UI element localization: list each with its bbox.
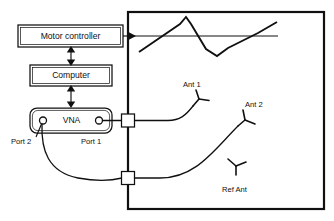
port1-label: Port 1 [81, 137, 101, 146]
block-diagram: Motor controller Computer VNA Port 2 Por… [0, 0, 334, 221]
computer-label: Computer [52, 70, 90, 80]
feedthrough-top[interactable] [122, 114, 135, 127]
motor-controller-label: Motor controller [41, 31, 101, 41]
ant1-label: Ant 1 [183, 80, 201, 89]
computer-vna-arrow-down [67, 102, 75, 109]
port2-label: Port 2 [11, 137, 31, 146]
ant2-label: Ant 2 [245, 100, 263, 109]
vna-label: VNA [63, 115, 81, 125]
diagram-canvas: Motor controller Computer VNA Port 2 Por… [0, 0, 334, 221]
feedthrough-bottom[interactable] [122, 172, 135, 185]
anechoic-chamber [128, 12, 324, 209]
vna-port1-connector[interactable] [96, 117, 103, 124]
ref-ant-label: Ref Ant [222, 185, 248, 194]
vna-port2-connector[interactable] [40, 117, 47, 124]
